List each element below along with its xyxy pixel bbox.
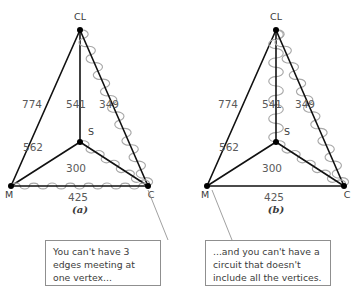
vertex-label-s: S xyxy=(284,126,290,137)
panel-caption-b: (b) xyxy=(268,204,285,215)
edge-weight-label: 541 xyxy=(66,98,86,110)
vertex-dot-cl xyxy=(273,27,279,33)
diagram-b: 774541349562300425CLSMC(b) xyxy=(201,11,351,240)
edge-weight-label: 774 xyxy=(218,98,238,110)
diagram-a: 774541349562300425CLSMC(a) xyxy=(5,11,168,240)
vertex-dot-cl xyxy=(77,27,83,33)
highlight-bead-overlay xyxy=(80,141,149,186)
vertex-label-s: S xyxy=(88,126,94,137)
vertex-label-m: M xyxy=(5,189,13,200)
edge-weight-label: 300 xyxy=(66,162,86,174)
figure-canvas: 774541349562300425CLSMC(a)77454134956230… xyxy=(0,0,361,295)
edge-weight-label: 774 xyxy=(22,98,42,110)
edge-b-s-c xyxy=(276,141,345,186)
callout-leader-line-b xyxy=(212,190,232,240)
vertex-dot-s xyxy=(273,139,279,145)
callout-box-b: ...and you can't have a circuit that doe… xyxy=(205,240,331,286)
edge-weight-label: 562 xyxy=(219,141,239,153)
edge-a-s-c xyxy=(80,141,149,186)
vertex-label-cl: CL xyxy=(270,11,283,22)
edge-weight-label: 562 xyxy=(23,141,43,153)
callout-box-a: You can't have 3 edges meeting at one ve… xyxy=(45,240,161,286)
edge-weight-label: 300 xyxy=(262,162,282,174)
vertex-label-m: M xyxy=(201,189,209,200)
edge-weight-label: 349 xyxy=(295,98,315,110)
edge-weight-label: 425 xyxy=(264,191,284,203)
callout-leader-line-a xyxy=(148,190,168,240)
vertex-label-c: C xyxy=(344,189,351,200)
edge-weight-label: 349 xyxy=(99,98,119,110)
panel-caption-a: (a) xyxy=(72,204,88,215)
vertex-label-cl: CL xyxy=(74,11,87,22)
highlight-bead-overlay xyxy=(276,141,345,186)
edge-weight-label: 425 xyxy=(68,191,88,203)
vertex-dot-s xyxy=(77,139,83,145)
edge-weight-label: 541 xyxy=(262,98,282,110)
edge-a-m-c xyxy=(11,183,148,189)
